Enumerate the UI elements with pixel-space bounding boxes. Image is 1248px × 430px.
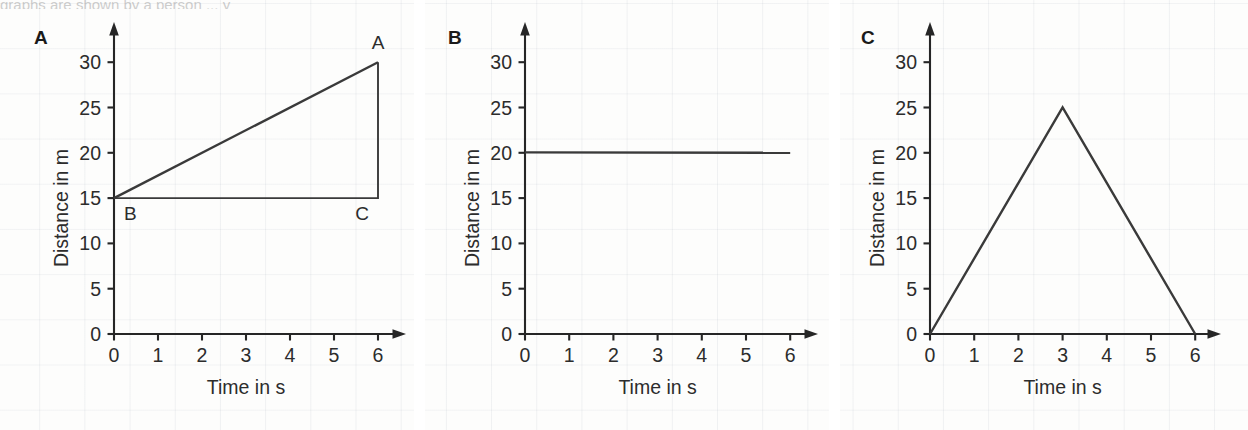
x-tick-label: 4 — [285, 344, 296, 366]
y-tick-label: 10 — [79, 232, 101, 254]
x-axis-arrowhead-b — [805, 329, 819, 339]
y-tick-label: 25 — [895, 97, 917, 119]
y-tick-label: 20 — [79, 142, 101, 164]
y-tick-label: 30 — [79, 51, 101, 73]
vertex-label-c: C — [355, 203, 369, 224]
y-axis-title-a: Distance in m — [50, 149, 72, 267]
x-tick-label: 1 — [564, 344, 575, 366]
y-axis-b — [520, 22, 530, 334]
x-axis-title-a: Time in s — [207, 376, 286, 398]
y-tick-label: 5 — [90, 278, 101, 300]
chart-b-svg: 0 5 10 15 20 25 30 0 1 2 3 4 5 6 Time in… — [425, 0, 830, 430]
chart-a-svg: 0 5 10 15 20 25 30 0 1 2 3 4 5 6 — [0, 0, 415, 430]
vertex-label-a: A — [372, 32, 385, 53]
x-tick-label: 0 — [109, 344, 120, 366]
x-tick-label: 2 — [197, 344, 208, 366]
x-tick-label: 1 — [153, 344, 164, 366]
y-tick-label: 15 — [79, 187, 101, 209]
y-tick-labels-a: 0 5 10 15 20 25 30 — [79, 51, 101, 345]
x-tick-label: 6 — [785, 344, 796, 366]
x-axis-title-b: Time in s — [618, 376, 697, 398]
y-tick-label: 10 — [895, 232, 917, 254]
y-tick-label: 10 — [490, 232, 512, 254]
y-tick-label: 30 — [490, 51, 512, 73]
panel-divider-1 — [414, 0, 425, 430]
y-tick-label: 25 — [79, 97, 101, 119]
y-tick-labels-b: 0 5 10 15 20 25 30 — [490, 51, 512, 345]
y-tick-label: 0 — [906, 323, 917, 345]
y-axis-title-b: Distance in m — [461, 149, 483, 267]
x-tick-label: 2 — [608, 344, 619, 366]
x-axis-arrowhead-a — [393, 329, 407, 339]
x-tick-label: 1 — [969, 344, 980, 366]
y-tick-label: 20 — [490, 142, 512, 164]
x-tick-labels-a: 0 1 2 3 4 5 6 — [109, 344, 384, 366]
x-tick-label: 3 — [652, 344, 663, 366]
x-tick-label: 4 — [1101, 344, 1112, 366]
y-axis-arrowhead-a — [109, 22, 119, 36]
x-tick-label: 4 — [696, 344, 707, 366]
x-tick-label: 6 — [373, 344, 384, 366]
vertex-label-b: B — [124, 203, 137, 224]
x-tick-label: 3 — [1057, 344, 1068, 366]
y-tick-label: 30 — [895, 51, 917, 73]
y-tick-label: 15 — [895, 187, 917, 209]
y-tick-label: 20 — [895, 142, 917, 164]
y-tick-label: 0 — [501, 323, 512, 345]
x-tick-label: 0 — [925, 344, 936, 366]
x-axis-arrowhead-c — [1208, 329, 1222, 339]
chart-panel-a: A 0 5 10 15 20 25 30 — [0, 0, 415, 430]
y-axis-c — [925, 22, 935, 334]
x-tick-label: 5 — [741, 344, 752, 366]
x-tick-label: 5 — [329, 344, 340, 366]
x-tick-label: 2 — [1013, 344, 1024, 366]
y-tick-label: 15 — [490, 187, 512, 209]
y-tick-label: 25 — [490, 97, 512, 119]
x-tick-labels-c: 0 1 2 3 4 5 6 — [925, 344, 1201, 366]
y-axis-arrowhead-c — [925, 22, 935, 36]
y-tick-labels-c: 0 5 10 15 20 25 30 — [895, 51, 917, 345]
y-tick-label: 0 — [90, 323, 101, 345]
data-series-c-triangle — [930, 108, 1195, 335]
x-tick-label: 3 — [241, 344, 252, 366]
x-tick-label: 5 — [1146, 344, 1157, 366]
x-tick-labels-b: 0 1 2 3 4 5 6 — [520, 344, 796, 366]
chart-panel-b: B 0 5 10 15 20 25 30 — [425, 0, 830, 430]
data-series-a-slope — [114, 62, 378, 198]
y-axis-title-c: Distance in m — [866, 149, 888, 267]
y-tick-label: 5 — [501, 278, 512, 300]
x-tick-label: 0 — [520, 344, 531, 366]
x-axis-title-c: Time in s — [1023, 376, 1102, 398]
y-tick-label: 5 — [906, 278, 917, 300]
x-tick-label: 6 — [1190, 344, 1201, 366]
chart-c-svg: 0 5 10 15 20 25 30 0 1 2 3 4 5 6 Time in… — [838, 0, 1248, 430]
y-axis-a — [109, 22, 119, 334]
chart-panel-c: C 0 5 10 15 20 25 30 — [838, 0, 1248, 430]
y-axis-arrowhead-b — [520, 22, 530, 36]
